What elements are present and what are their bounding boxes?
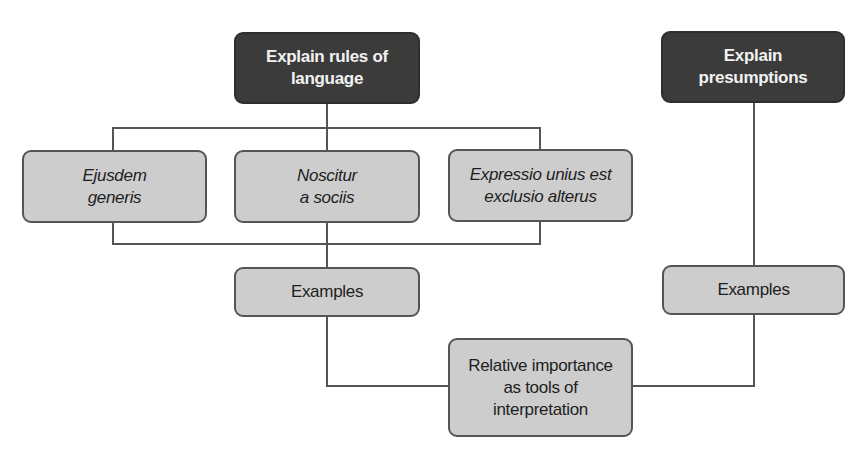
node-ejusdem-generis: Ejusdem generis: [22, 150, 207, 223]
node-examples-rules: Examples: [234, 267, 420, 317]
flow-diagram: Explain rules of language Explain presum…: [0, 0, 868, 459]
node-label: Explain presumptions: [699, 45, 808, 89]
node-label: Ejusdem generis: [82, 165, 146, 209]
node-label: Examples: [291, 281, 363, 303]
connector-examples-to-relative: [327, 316, 448, 386]
node-label: Expressio unius est exclusio alterus: [470, 164, 612, 208]
node-expressio-unius: Expressio unius est exclusio alterus: [448, 149, 633, 222]
node-explain-presumptions: Explain presumptions: [661, 31, 845, 103]
node-noscitur-a-sociis: Noscitur a sociis: [234, 150, 420, 223]
node-relative-importance: Relative importance as tools of interpre…: [448, 338, 633, 437]
node-examples-presumptions: Examples: [662, 265, 845, 315]
node-label: Examples: [717, 279, 789, 301]
node-label: Noscitur a sociis: [297, 165, 357, 209]
node-label: Explain rules of language: [266, 46, 388, 90]
node-label: Relative importance as tools of interpre…: [468, 355, 613, 421]
connector-examples-right-to-relative: [633, 314, 754, 386]
node-explain-rules-of-language: Explain rules of language: [234, 32, 420, 104]
